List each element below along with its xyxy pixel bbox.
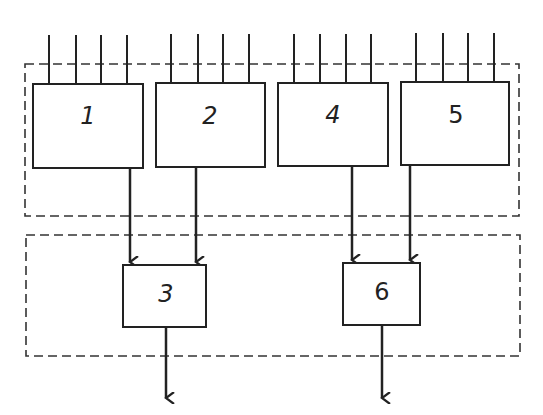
block-4: 4 — [278, 83, 388, 166]
block-2-label: 2 — [202, 102, 217, 130]
block-1-label: 1 — [80, 102, 95, 130]
block-3: 3 — [123, 265, 206, 327]
block-4-inputs — [294, 34, 371, 83]
block-1: 1 — [33, 84, 143, 168]
block-2: 2 — [156, 83, 265, 167]
block-6: 6 — [343, 263, 420, 325]
block-5-inputs — [416, 33, 494, 82]
block-diagram: 1 2 4 5 3 6 — [0, 0, 543, 415]
connection-arrows — [130, 165, 410, 262]
block-3-label: 3 — [158, 280, 173, 308]
block-2-inputs — [171, 34, 249, 83]
output-arrows — [166, 325, 382, 398]
block-1-inputs — [49, 35, 127, 84]
lower-group-boundary — [26, 235, 520, 356]
block-4-label: 4 — [325, 101, 340, 129]
block-5: 5 — [401, 82, 509, 165]
block-5-label: 5 — [448, 101, 463, 129]
block-6-label: 6 — [374, 278, 389, 306]
